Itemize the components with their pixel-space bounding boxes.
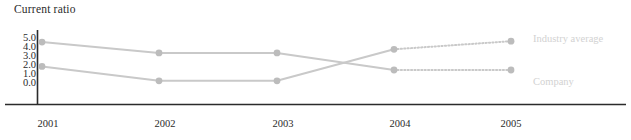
series-segment bbox=[277, 53, 394, 70]
data-point-marker bbox=[508, 67, 515, 74]
x-tick-label-2001: 2001 bbox=[38, 118, 59, 129]
series-segment bbox=[42, 42, 159, 53]
legend-label-company: Company bbox=[533, 76, 574, 87]
data-point-marker bbox=[274, 77, 281, 84]
series-segment bbox=[394, 41, 511, 49]
data-point-marker bbox=[39, 63, 46, 70]
series-segment bbox=[277, 49, 394, 81]
x-tick-label-2005: 2005 bbox=[501, 118, 522, 129]
x-tick-label-2003: 2003 bbox=[273, 118, 294, 129]
data-point-marker bbox=[156, 50, 163, 57]
data-point-marker bbox=[508, 38, 515, 45]
chart-container: Current ratio 5.0 4.0 3.0 2.0 1.0 0.0 20… bbox=[0, 0, 631, 140]
chart-plot-area bbox=[0, 0, 631, 140]
data-series-layer bbox=[39, 38, 515, 84]
data-point-marker bbox=[274, 50, 281, 57]
x-tick-label-2002: 2002 bbox=[155, 118, 176, 129]
series-segment bbox=[42, 66, 159, 80]
data-point-marker bbox=[39, 39, 46, 46]
data-point-marker bbox=[391, 46, 398, 53]
x-tick-label-2004: 2004 bbox=[390, 118, 411, 129]
data-point-marker bbox=[156, 77, 163, 84]
legend-label-industry-average: Industry average bbox=[533, 33, 603, 44]
data-point-marker bbox=[391, 67, 398, 74]
